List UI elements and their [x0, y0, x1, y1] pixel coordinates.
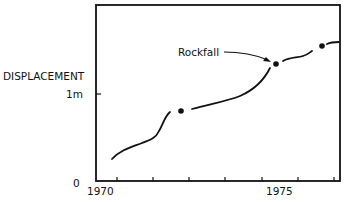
y-axis-label: DISPLACEMENT: [3, 71, 84, 82]
displacement-chart: DISPLACEMENT 1m 0 1970 1975 Rockfall: [0, 0, 347, 202]
marker-rockfall: [273, 61, 279, 67]
x-tick-label-1970: 1970: [87, 186, 114, 197]
marker-1976: [319, 43, 325, 49]
marker-1972: [178, 108, 184, 114]
rockfall-annotation: Rockfall: [178, 47, 219, 58]
rockfall-arrow: [224, 52, 271, 62]
x-tick-label-1975: 1975: [266, 186, 293, 197]
plot-frame: [96, 5, 340, 181]
plot-area: [0, 0, 347, 202]
y-tick-label-1m: 1m: [66, 89, 83, 100]
y-tick-label-0: 0: [73, 178, 80, 189]
displacement-curve: [112, 42, 339, 159]
